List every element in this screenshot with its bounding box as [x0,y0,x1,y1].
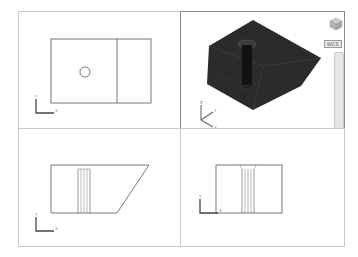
ucs-icon: Y X [19,12,182,130]
svg-text:Z: Z [200,100,203,105]
svg-text:Y: Y [34,212,38,217]
ucs-icon-3d: Z Y X [181,12,346,130]
svg-text:Y: Y [213,108,217,113]
svg-text:X: X [55,108,58,113]
wcs-menu-button[interactable]: WCS [324,40,342,48]
svg-text:Y: Y [198,194,202,199]
ucs-icon: Y X [181,129,346,248]
ucs-icon: Y X [19,129,182,248]
svg-text:X: X [219,208,222,213]
viewcube-icon[interactable] [328,16,344,32]
viewport-right[interactable]: Y X [180,128,345,247]
svg-text:X: X [55,226,58,231]
viewport-isometric[interactable]: Z Y X WCS [180,11,345,129]
svg-text:Y: Y [34,94,38,99]
navigation-bar[interactable] [334,52,344,129]
viewport-front[interactable]: Y X [18,128,181,247]
viewport-top[interactable]: Y X [18,11,181,129]
